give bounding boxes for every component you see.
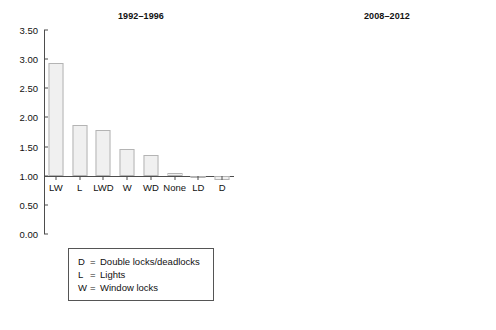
bar [120, 149, 135, 175]
figure-canvas: 1992–1996 LWLLWDWWDNoneLDD 0.000.501.001… [0, 0, 496, 330]
legend-description: Window locks [100, 281, 204, 294]
chart-panel-left: 1992–1996 LWLLWDWWDNoneLDD 0.000.501.001… [0, 0, 248, 330]
bar [72, 125, 87, 176]
bar-group-left: LWLLWDWWDNoneLDD [44, 30, 234, 234]
bar [143, 155, 158, 176]
y-axis-tick-mark [44, 88, 48, 89]
legend-key: W [78, 281, 90, 294]
x-axis-category-label: W [123, 182, 132, 193]
y-axis-tick-mark [44, 234, 48, 235]
y-axis-tick-label: 0.00 [20, 229, 45, 240]
y-axis-tick-mark [44, 204, 48, 205]
y-axis-tick-label: 1.00 [20, 170, 45, 181]
bar-slot: W [115, 30, 139, 234]
y-axis-tick-mark [44, 59, 48, 60]
chart-title-right: 2008–2012 [248, 11, 496, 21]
x-axis-category-label: LW [49, 182, 63, 193]
bar-slot: LWD [92, 30, 116, 234]
y-axis-tick-mark [44, 175, 48, 176]
x-axis-category-label: WD [143, 182, 159, 193]
legend-row: L=Lights [78, 268, 204, 281]
y-axis-tick-label: 3.00 [20, 54, 45, 65]
x-axis-category-label: None [163, 182, 186, 193]
legend-box-left: D=Double locks/deadlocksL=LightsW=Window… [68, 248, 214, 301]
x-axis-tick-mark [174, 176, 175, 180]
chart-title-left: 1992–1996 [0, 11, 248, 21]
x-axis-tick-mark [79, 176, 80, 180]
x-axis-category-label: D [219, 182, 226, 193]
y-axis-tick-label: 0.50 [20, 199, 45, 210]
bar [96, 130, 111, 176]
y-axis-tick-label: 2.00 [20, 112, 45, 123]
bar-slot: L [68, 30, 92, 234]
x-axis-tick-mark [127, 176, 128, 180]
x-axis-tick-mark [198, 176, 199, 180]
legend-equals-sign: = [90, 268, 100, 281]
x-axis-category-label: LD [192, 182, 204, 193]
y-axis-tick-label: 1.50 [20, 141, 45, 152]
y-axis-tick-label: 2.50 [20, 83, 45, 94]
y-axis-tick-mark [44, 30, 48, 31]
legend-row: D=Double locks/deadlocks [78, 255, 204, 268]
x-axis-tick-mark [150, 176, 151, 180]
bar-slot: None [163, 30, 187, 234]
legend-description: Double locks/deadlocks [100, 255, 204, 268]
legend-equals-sign: = [90, 281, 100, 294]
legend-key: L [78, 268, 90, 281]
y-axis-tick-mark [44, 117, 48, 118]
bar-slot: D [210, 30, 234, 234]
legend-description: Lights [100, 268, 204, 281]
legend-equals-sign: = [90, 255, 100, 268]
x-axis-tick-mark [103, 176, 104, 180]
x-axis-tick-mark [222, 176, 223, 180]
legend-row: W=Window locks [78, 281, 204, 294]
bar [48, 63, 63, 175]
x-axis-tick-mark [55, 176, 56, 180]
plot-area-left: LWLLWDWWDNoneLDD 0.000.501.001.502.002.5… [44, 30, 234, 234]
y-axis-tick-label: 3.50 [20, 25, 45, 36]
chart-panel-right: 2008–2012 IWDNoneWWDDWIDEEWEWD 0.000.200… [248, 0, 496, 330]
x-axis-category-label: LWD [93, 182, 113, 193]
bar-slot: WD [139, 30, 163, 234]
bar-slot: LD [187, 30, 211, 234]
legend-key: D [78, 255, 90, 268]
y-axis-tick-mark [44, 146, 48, 147]
x-axis-category-label: L [77, 182, 82, 193]
